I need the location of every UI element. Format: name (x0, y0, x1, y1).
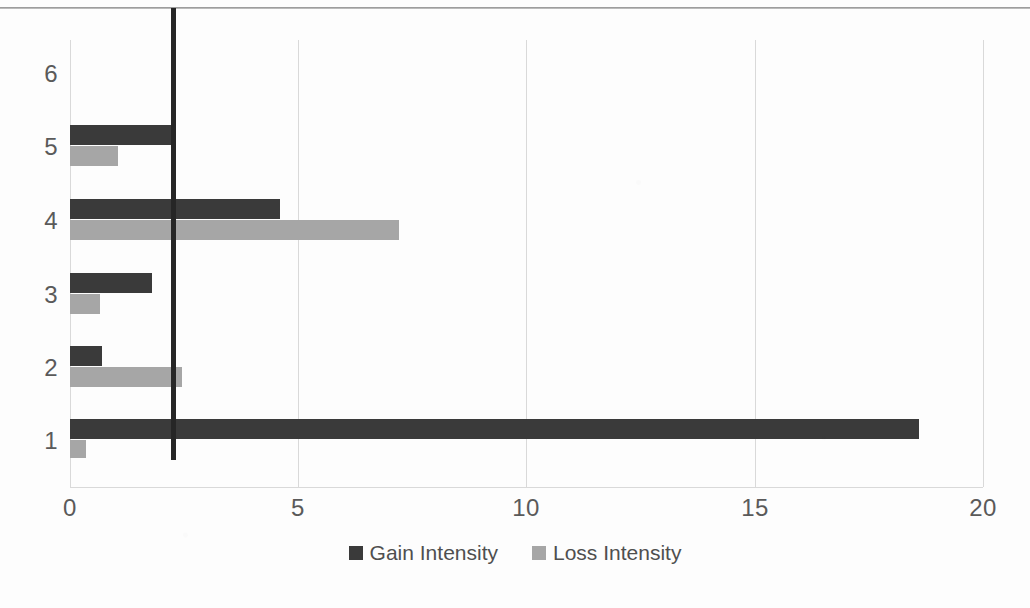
bar-gain-2 (70, 346, 102, 366)
legend-label-gain: Gain Intensity (370, 541, 498, 565)
bar-loss-1 (70, 440, 86, 458)
bar-gain-3 (70, 273, 152, 293)
y-tick-4: 4 (18, 207, 58, 235)
bar-gain-5 (70, 125, 173, 145)
x-tick-10: 10 (512, 494, 540, 522)
chart-legend: Gain Intensity Loss Intensity (0, 541, 1030, 565)
legend-label-loss: Loss Intensity (553, 541, 681, 565)
bar-loss-5 (70, 146, 118, 166)
bar-gain-1 (70, 419, 919, 439)
chart-canvas: 6 5 4 3 2 1 0 5 10 15 20 Gain Intensity … (0, 0, 1030, 608)
y-tick-6: 6 (18, 60, 58, 88)
x-tick-20: 20 (969, 494, 997, 522)
y-tick-3: 3 (18, 281, 58, 309)
legend-item-gain-intensity: Gain Intensity (349, 541, 498, 565)
gridline-20 (983, 40, 984, 487)
bar-loss-4 (70, 220, 399, 240)
legend-swatch-icon-gain (349, 546, 363, 560)
legend-swatch-icon-loss (532, 546, 546, 560)
reference-line (171, 8, 176, 460)
bar-loss-2 (70, 367, 182, 387)
y-tick-2: 2 (18, 354, 58, 382)
x-tick-5: 5 (291, 494, 305, 522)
y-tick-5: 5 (18, 133, 58, 161)
x-tick-15: 15 (741, 494, 769, 522)
x-axis-line (70, 487, 983, 488)
y-tick-1: 1 (18, 427, 58, 455)
bar-loss-3 (70, 294, 100, 314)
y-axis-labels: 6 5 4 3 2 1 (0, 0, 58, 608)
x-tick-0: 0 (63, 494, 77, 522)
legend-item-loss-intensity: Loss Intensity (532, 541, 681, 565)
page-top-rule (0, 7, 1030, 9)
